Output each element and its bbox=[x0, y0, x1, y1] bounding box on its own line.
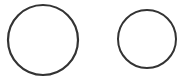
diagram-canvas bbox=[0, 0, 183, 79]
large-circle bbox=[8, 5, 78, 75]
small-circle bbox=[118, 10, 176, 68]
